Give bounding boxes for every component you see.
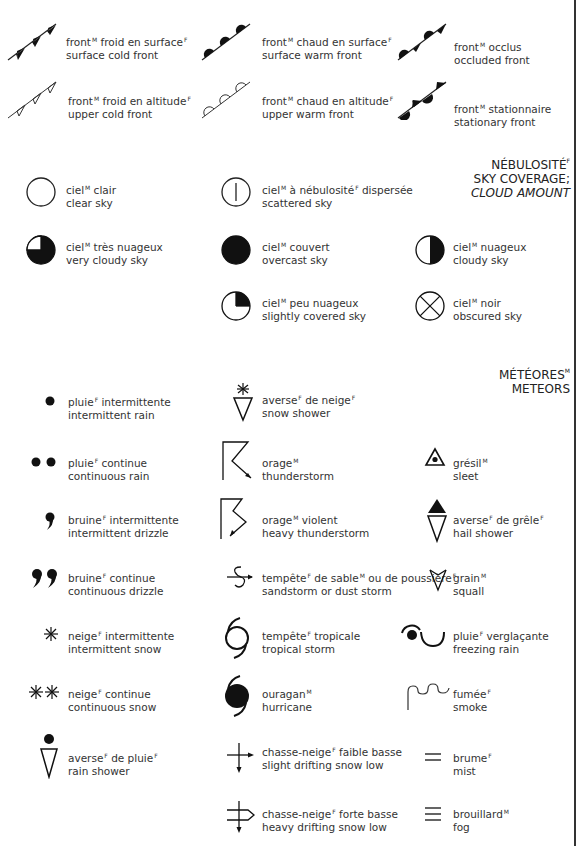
continuous-drizzle-icon [30, 568, 60, 590]
front-label: frontM stationnaire stationary front [454, 100, 551, 129]
meteor-label: grainM squall [453, 569, 486, 598]
meteor-label: orageM violent heavy thunderstorm [262, 511, 369, 540]
squall-icon [428, 568, 448, 592]
snow-shower-icon [230, 382, 256, 422]
meteor-label: brouillardM fog [453, 805, 509, 834]
continuous-rain-icon [30, 456, 58, 468]
upper-warm-front-icon [200, 78, 252, 120]
section-header-sky-coverage: NÉBULOSITÉF SKY COVERAGE; CLOUD AMOUNT [471, 154, 570, 200]
sandstorm-icon [225, 564, 255, 590]
sky-label: cielM couvert overcast sky [262, 238, 330, 267]
front-label: frontM occlus occluded front [454, 38, 530, 67]
surface-warm-front-icon [200, 20, 252, 62]
intermittent-rain-icon [44, 395, 56, 407]
fog-icon [424, 806, 442, 822]
meteor-label: fuméeF smoke [453, 685, 491, 714]
meteor-label: tempêteF tropicale tropical storm [262, 627, 360, 656]
sky-label: cielM peu nuageux slightly covered sky [262, 294, 366, 323]
surface-cold-front-icon [6, 20, 58, 62]
occluded-front-icon [396, 20, 448, 62]
page-margin-rule [574, 0, 576, 846]
front-label: frontM chaud en surfaceF surface warm fr… [262, 33, 392, 62]
thunderstorm-icon [220, 440, 254, 482]
meteor-label: averseF de grêleF hail shower [453, 511, 544, 540]
meteor-label: averseF de neigeF snow shower [262, 391, 355, 420]
tropical-storm-icon [222, 616, 254, 660]
meteor-label: averseF de pluieF rain shower [68, 749, 158, 778]
smoke-icon [406, 682, 452, 712]
section-header-meteors: MÉTÉORESM METEORS [499, 364, 570, 396]
front-label: frontM froid en altitudeF upper cold fro… [68, 92, 191, 121]
meteor-label: bruineF continue continuous drizzle [68, 569, 163, 598]
sky-label: cielM très nuageux very cloudy sky [66, 238, 163, 267]
front-label: frontM chaud en altitudeF upper warm fro… [262, 92, 393, 121]
meteor-label: orageM thunderstorm [262, 454, 334, 483]
freezing-rain-icon [400, 622, 450, 650]
meteor-label: pluieF continue continuous rain [68, 454, 149, 483]
very-cloudy-sky-icon [25, 234, 57, 266]
rain-shower-icon [38, 733, 60, 779]
slight-drifting-snow-icon [226, 742, 256, 774]
meteor-label: pluieF verglaçante freezing rain [453, 627, 549, 656]
overcast-sky-icon [220, 234, 252, 266]
sky-label: cielM clair clear sky [66, 181, 116, 210]
heavy-drifting-snow-icon [226, 800, 256, 834]
upper-cold-front-icon [6, 78, 58, 120]
meteor-label: neigeF continue continuous snow [68, 685, 156, 714]
obscured-sky-icon [414, 290, 446, 322]
heavy-thunderstorm-icon [218, 497, 252, 541]
meteor-label: brumeF mist [453, 749, 492, 778]
mist-icon [424, 752, 442, 762]
meteor-label: neigeF intermittente intermittent snow [68, 627, 174, 656]
sky-label: cielM noir obscured sky [453, 294, 522, 323]
hail-shower-icon [426, 498, 448, 543]
meteor-label: bruineF intermittente intermittent drizz… [68, 511, 179, 540]
sleet-icon [424, 447, 446, 467]
stationary-front-icon [396, 78, 448, 120]
sky-label: cielM à nébulositéF dispersée scattered … [262, 181, 413, 210]
meteor-label: ouraganM hurricane [262, 685, 312, 714]
meteor-label: pluieF intermittente intermittent rain [68, 393, 171, 422]
scattered-sky-icon [220, 176, 252, 208]
front-label: frontM froid en surfaceF surface cold fr… [66, 33, 187, 62]
cloudy-sky-icon [414, 234, 446, 266]
intermittent-snow-icon [43, 626, 59, 642]
meteor-label: grésilM sleet [453, 454, 488, 483]
intermittent-drizzle-icon [44, 512, 56, 532]
continuous-snow-icon [28, 684, 60, 700]
meteor-label: chasse-neigeF forte basse heavy drifting… [262, 805, 398, 834]
clear-sky-icon [25, 176, 57, 208]
slightly-covered-sky-icon [220, 290, 252, 322]
meteor-label: chasse-neigeF faible basse slight drifti… [262, 743, 402, 772]
sky-label: cielM nuageux cloudy sky [453, 238, 526, 267]
hurricane-icon [222, 674, 254, 718]
